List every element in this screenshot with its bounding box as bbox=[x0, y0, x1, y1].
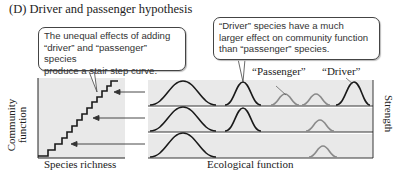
row-1-bg bbox=[148, 80, 373, 106]
row-2-bg bbox=[148, 108, 373, 132]
left-callout-line2: “driver” and “passenger” species bbox=[44, 42, 180, 65]
right-callout-line3: than “passenger” species. bbox=[219, 43, 374, 55]
y-axis-line2: function bbox=[17, 94, 28, 156]
strength-label: Strength bbox=[383, 95, 395, 132]
left-callout: The unequal effects of adding “driver” a… bbox=[38, 27, 186, 71]
right-callout-line1: “Driver” species have a much bbox=[219, 20, 374, 32]
right-callout-pointer bbox=[238, 59, 245, 82]
driver-label: “Driver” bbox=[322, 65, 360, 77]
right-callout-line2: larger effect on community function bbox=[219, 32, 374, 44]
species-richness-label: Species richness bbox=[44, 158, 116, 170]
row-3-bg bbox=[148, 134, 373, 158]
left-callout-line3: produce a stair step curve. bbox=[44, 65, 180, 77]
left-callout-line1: The unequal effects of adding bbox=[44, 30, 180, 42]
passenger-label: “Passenger” bbox=[252, 65, 306, 77]
ecological-function-label: Ecological function bbox=[207, 158, 293, 170]
right-callout: “Driver” species have a much larger effe… bbox=[213, 17, 380, 60]
left-y-axis-label: Community function bbox=[0, 100, 34, 160]
